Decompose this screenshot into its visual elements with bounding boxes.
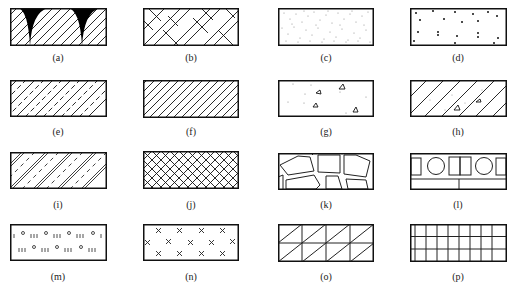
panel-label: (c): [276, 52, 376, 63]
panel-label: (o): [276, 271, 376, 282]
panel-label: (p): [408, 271, 508, 282]
pattern-j-cross-hatch: [143, 151, 239, 189]
pattern-o-grid-diagonals: [278, 224, 374, 262]
panel-label: (e): [8, 126, 108, 137]
panel-label: (f): [141, 126, 241, 137]
pattern-f-diagonal-hatch: [143, 80, 239, 118]
panel-label: (k): [276, 199, 376, 210]
pattern-p-rect-grid: [410, 224, 507, 262]
pattern-m-circles-ticks: [10, 224, 107, 261]
panel-label: (h): [408, 126, 508, 137]
panel-label: (j): [141, 199, 241, 210]
pattern-d-sparse-dots: [410, 8, 507, 46]
pattern-h-wide-hatch-triangles: [410, 80, 507, 117]
pattern-c-fine-stipple: [278, 8, 374, 46]
panel-label: (n): [141, 271, 241, 282]
pattern-b-herringbone: [143, 8, 239, 46]
pattern-a-diagonal-hatch-black-cusps: [10, 8, 107, 46]
panel-label: (g): [276, 126, 376, 137]
panel-label: (l): [408, 199, 508, 210]
pattern-n-crosses: [143, 224, 239, 261]
panel-label: (a): [8, 52, 108, 63]
panel-label: (d): [408, 52, 508, 63]
panel-label: (m): [8, 271, 108, 282]
pattern-k-irregular-stones: [278, 153, 374, 190]
pattern-l-blocks-circles: [410, 153, 507, 190]
pattern-g-dots-triangles: [278, 80, 374, 117]
pattern-i-double-lines-dashes: [10, 152, 107, 189]
panel-label: (i): [8, 199, 108, 210]
panel-label: (b): [141, 52, 241, 63]
pattern-e-dashed-hatch: [10, 80, 107, 117]
